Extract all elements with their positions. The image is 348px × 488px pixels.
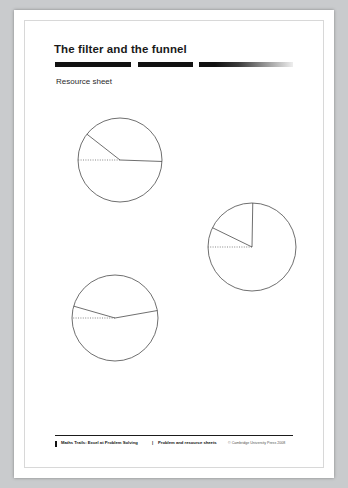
footer-rule bbox=[55, 435, 293, 436]
footer-copyright: © Cambridge University Press 2008 bbox=[228, 441, 285, 445]
circle-top-left-radius-upper-left bbox=[87, 134, 120, 160]
circle-bottom-left-radius-right bbox=[115, 311, 157, 318]
footer-separator: | bbox=[152, 440, 153, 445]
footer-section-title: Problem and resource sheets bbox=[158, 440, 217, 445]
circle-middle-right-radius-upper-left bbox=[212, 228, 252, 247]
paper-page: The filter and the funnel Resource sheet… bbox=[14, 10, 334, 478]
footer-marker bbox=[55, 441, 57, 447]
circle-diagrams bbox=[14, 10, 334, 478]
circle-middle-right-radius-up bbox=[252, 203, 253, 247]
footer-series-title: Maths Trails: Excel at Problem Solving bbox=[61, 440, 138, 445]
circle-bottom-left-radius-upper-left bbox=[74, 306, 115, 318]
page-footer: Maths Trails: Excel at Problem Solving |… bbox=[55, 440, 295, 450]
circle-top-left-radius-right bbox=[120, 160, 162, 161]
